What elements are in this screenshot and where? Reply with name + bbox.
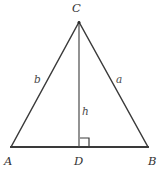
vertex-label-c: C [72,3,81,14]
side-label-a: a [116,74,122,85]
segment-side-a [79,22,148,147]
vertex-dot-c [78,21,81,24]
vertex-label-d: D [74,156,83,167]
triangle-figure-svg [0,0,161,179]
triangle-diagram: C A D B b a h [0,0,161,179]
vertex-label-a: A [4,156,12,167]
altitude-label-h: h [82,106,89,117]
side-label-b: b [34,74,41,85]
right-angle-marker-icon [80,138,89,147]
segment-side-b [11,22,79,147]
vertex-label-b: B [148,156,156,167]
